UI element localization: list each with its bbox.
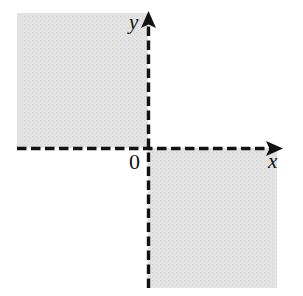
- axes-and-regions-svg: [0, 0, 303, 296]
- shaded-region-quadrant-iv: [148, 148, 277, 288]
- y-axis-label: y: [129, 12, 138, 33]
- x-axis-label: x: [268, 151, 277, 172]
- origin-label: 0: [129, 151, 140, 173]
- coordinate-plane-figure: y x 0: [0, 0, 303, 296]
